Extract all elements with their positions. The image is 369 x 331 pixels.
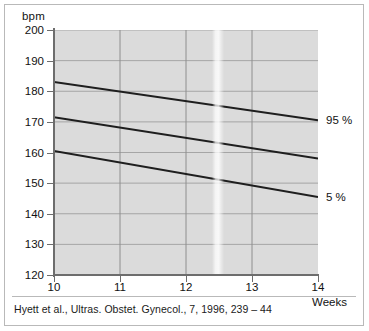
y-tick xyxy=(47,122,53,123)
y-tick-label: 170 xyxy=(10,116,44,128)
y-tick-label: 190 xyxy=(10,55,44,67)
x-tick-label: 14 xyxy=(312,281,325,293)
y-tick-label: 130 xyxy=(10,238,44,250)
x-tick-label: 10 xyxy=(48,281,61,293)
y-tick xyxy=(47,61,53,62)
plot-area xyxy=(54,30,318,275)
y-tick-label: 200 xyxy=(10,24,44,36)
figure-container: bpm 200190180170160150140130120 10111213… xyxy=(0,0,369,331)
y-tick xyxy=(47,183,53,184)
y-tick-label: 180 xyxy=(10,85,44,97)
y-tick-label: 120 xyxy=(10,269,44,281)
y-tick xyxy=(47,91,53,92)
y-tick-label: 140 xyxy=(10,208,44,220)
series-layer xyxy=(54,30,318,275)
y-axis-line xyxy=(53,28,55,277)
y-tick-label: 150 xyxy=(10,177,44,189)
figure-caption: Hyett et al., Ultras. Obstet. Gynecol., … xyxy=(14,303,272,315)
y-axis-tick-labels: 200190180170160150140130120 xyxy=(8,0,44,331)
series-label: 95 % xyxy=(326,114,352,126)
y-tick xyxy=(47,153,53,154)
series-label: 5 % xyxy=(326,191,346,203)
x-tick-label: 13 xyxy=(246,281,259,293)
caption-divider xyxy=(12,296,356,297)
x-tick xyxy=(252,276,253,282)
x-tick xyxy=(318,276,319,282)
y-tick-label: 160 xyxy=(10,147,44,159)
x-tick xyxy=(54,276,55,282)
y-tick xyxy=(47,214,53,215)
x-axis-title: Weeks xyxy=(312,296,347,308)
x-tick-label: 12 xyxy=(180,281,193,293)
y-tick xyxy=(47,30,53,31)
y-tick xyxy=(47,244,53,245)
x-tick xyxy=(120,276,121,282)
y-tick xyxy=(47,275,53,276)
x-tick xyxy=(186,276,187,282)
x-tick-label: 11 xyxy=(114,281,126,293)
